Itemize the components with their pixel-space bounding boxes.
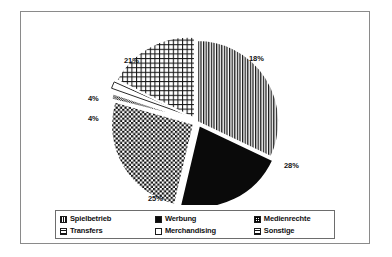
legend-item-spielbetrieb[interactable]: Spielbetrieb <box>60 213 155 225</box>
legend-label: Merchandising <box>165 227 216 235</box>
pie-label-werbung: 28% <box>284 162 299 170</box>
pie-label-medienrechte: 4% <box>88 115 99 123</box>
chart-figure-frame: 18% 28% 25% 4% 4% 21% Spielbetrieb Werbu… <box>20 11 370 244</box>
pie-chart-plot-area: 18% 28% 25% 4% 4% 21% <box>21 12 369 205</box>
legend-row: Transfers Merchandising Sonstige <box>60 225 331 237</box>
legend-row: Spielbetrieb Werbung Medienrechte <box>60 213 331 225</box>
legend-item-sonstige[interactable]: Sonstige <box>254 225 331 237</box>
pie-chart-svg <box>21 12 369 205</box>
legend-label: Medienrechte <box>264 215 311 223</box>
pie-label-transfers: 25% <box>148 195 163 203</box>
pie-label-merchandising: 4% <box>88 95 99 103</box>
legend-label: Werbung <box>165 215 196 223</box>
legend-label: Sonstige <box>264 227 294 235</box>
legend-item-medienrechte[interactable]: Medienrechte <box>254 213 331 225</box>
legend-label: Transfers <box>70 227 102 235</box>
legend-item-merchandising[interactable]: Merchandising <box>155 225 254 237</box>
legend-swatch-fine-dots-icon <box>254 216 261 223</box>
legend-item-transfers[interactable]: Transfers <box>60 225 155 237</box>
legend-swatch-vertical-stripes-icon <box>60 216 67 223</box>
legend-swatch-solid-black-icon <box>155 216 162 223</box>
legend-label: Spielbetrieb <box>70 215 111 223</box>
pie-label-spielbetrieb: 18% <box>249 55 264 63</box>
legend-swatch-coarse-checker-icon <box>60 228 67 235</box>
pie-label-sonstige: 21% <box>124 57 139 65</box>
legend-swatch-fine-grid-icon <box>254 228 261 235</box>
legend-swatch-white-empty-icon <box>155 228 162 235</box>
legend-item-werbung[interactable]: Werbung <box>155 213 254 225</box>
chart-legend: Spielbetrieb Werbung Medienrechte Transf… <box>55 210 335 239</box>
